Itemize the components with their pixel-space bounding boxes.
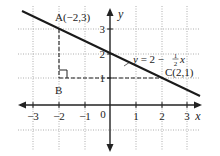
y-axis-arrow-down-icon	[107, 144, 114, 152]
equation-prefix: = 2 −	[138, 53, 164, 65]
x-tick-label: 3	[184, 110, 190, 122]
point-label-B: B	[55, 84, 62, 96]
x-tick-labels: −3 −2 −1 1 2 3	[27, 110, 190, 122]
x-tick-label: 1	[133, 110, 139, 122]
x-tick-label: −2	[53, 110, 65, 122]
equation-fraction-denominator: 2	[174, 60, 178, 68]
x-axis-label: x	[194, 109, 201, 123]
x-axis-arrow-left-icon	[18, 102, 26, 109]
equation-fraction-numerator: 1	[174, 52, 178, 60]
right-angle-marker	[59, 70, 67, 78]
point-label-C: C(2,1)	[165, 66, 194, 79]
equation-label: y = 2 − 1 2 x	[132, 52, 185, 68]
y-tick-label: 2	[100, 48, 106, 60]
axes	[20, 10, 200, 150]
x-tick-label: 2	[159, 110, 165, 122]
origin-label: 0	[100, 108, 106, 120]
point-label-A: A(−2,3)	[55, 11, 91, 24]
equation-suffix: x	[179, 53, 185, 65]
coordinate-plane-figure: −3 −2 −1 1 2 3 1 2 3 0 x y A(−2,3) B C(2…	[0, 0, 220, 156]
x-axis-arrow-right-icon	[194, 102, 202, 109]
y-axis-arrow-up-icon	[107, 8, 114, 16]
y-tick-label: 1	[100, 72, 106, 84]
y-tick-labels: 1 2 3	[100, 23, 106, 84]
y-tick-label: 3	[100, 23, 106, 35]
x-tick-label: −3	[27, 110, 39, 122]
equation-leader	[124, 62, 130, 66]
y-axis-label: y	[117, 7, 124, 21]
svg-text:y = 2 −: y = 2 −	[132, 53, 164, 65]
x-tick-label: −1	[79, 110, 91, 122]
